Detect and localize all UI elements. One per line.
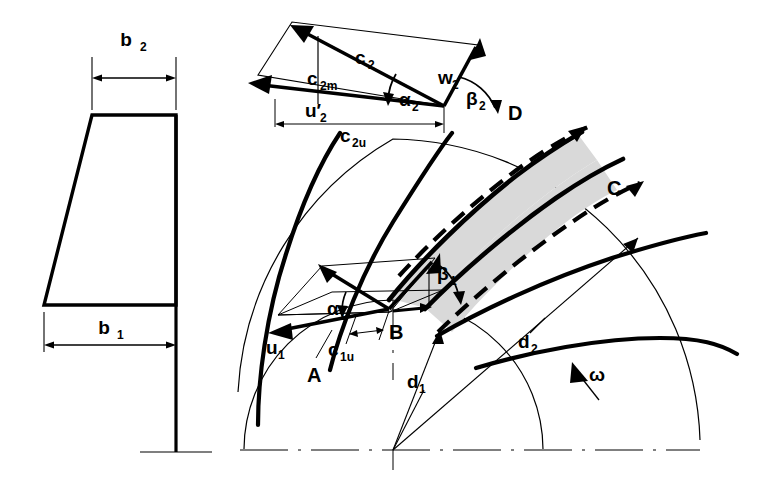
c2u-label-subscript: 2u — [352, 136, 366, 150]
d1-label: d — [407, 371, 419, 392]
c1u-label-subscript: 1u — [340, 350, 354, 364]
alpha1-label: α — [327, 298, 339, 319]
rotation-omega: ω — [570, 362, 605, 400]
b1-label-subscript: 1 — [117, 328, 124, 342]
c2u-label: c — [340, 125, 351, 146]
alpha2-label-subscript: 2 — [412, 100, 419, 114]
d2-label: d — [518, 331, 530, 352]
beta1-label: β — [437, 263, 449, 284]
b2-label-subscript: 2 — [140, 40, 147, 54]
point-D-label: D — [508, 102, 522, 124]
alpha2-label: α — [399, 89, 411, 110]
b1-dimension: b 1 — [44, 312, 176, 352]
point-A-label: A — [307, 364, 321, 386]
point-B-label: B — [389, 321, 403, 343]
point-C-label: C — [607, 177, 621, 199]
impeller-velocity-triangle-diagram: b 2 b 1 — [0, 0, 763, 481]
impeller-blade-section — [44, 115, 212, 452]
d2-label-subscript: 2 — [531, 342, 538, 356]
beta2-arrowhead — [490, 100, 502, 114]
omega-arrowhead — [570, 362, 588, 383]
u1-label-subscript: 1 — [278, 348, 285, 362]
impeller-plan-view-group: d 1 d 2 ω A B C D — [238, 22, 737, 470]
u2-label-subscript: 2 — [320, 111, 327, 125]
c2m-label: c — [307, 68, 318, 89]
b2-label: b — [120, 29, 132, 50]
c2-label-subscript: 2 — [368, 58, 375, 72]
u1-label: u — [266, 337, 278, 358]
c1-arrowhead — [318, 264, 337, 283]
beta1-label-subscript: 1 — [450, 274, 457, 288]
omega-label: ω — [589, 364, 605, 385]
b1-label: b — [98, 317, 110, 338]
b2-dimension: b 2 — [92, 29, 176, 110]
beta2-label: β — [466, 88, 478, 109]
w2-label: w — [437, 67, 453, 88]
d1-radius-leader: d 1 — [393, 330, 444, 450]
arrow-blade2-tip — [626, 181, 644, 197]
u2-arrowhead — [248, 75, 272, 94]
d1-label-subscript: 1 — [419, 382, 426, 396]
outlet-velocity-triangle: c 2 c 2m u′ 2 c 2u w 2 α 2 β 2 — [248, 22, 502, 150]
c1u-label: c — [328, 339, 339, 360]
c2-label: c — [355, 47, 366, 68]
c2m-label-subscript: 2m — [320, 79, 337, 93]
w2-label-subscript: 2 — [452, 78, 459, 92]
alpha1-label-subscript: 1 — [339, 309, 346, 323]
w2-arrowhead — [470, 38, 486, 60]
diagram-canvas: b 2 b 1 — [0, 0, 763, 481]
meridional-view-group: b 2 b 1 — [44, 29, 212, 452]
beta2-label-subscript: 2 — [479, 99, 486, 113]
